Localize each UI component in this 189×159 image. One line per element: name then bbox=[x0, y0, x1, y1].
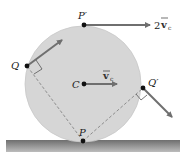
label-top-velocity: 2 v c bbox=[154, 18, 172, 31]
point-center bbox=[82, 82, 87, 87]
svg-text:c: c bbox=[168, 24, 172, 31]
point-p-prime bbox=[82, 23, 87, 28]
label-p-prime: P′ bbox=[77, 10, 88, 21]
rolling-wheel-diagram: P′ P C Q Q′ v c 2 v c bbox=[0, 0, 189, 159]
svg-text:v: v bbox=[102, 70, 110, 81]
label-q-prime: Q′ bbox=[148, 77, 159, 88]
svg-text:v: v bbox=[160, 19, 168, 30]
ground bbox=[6, 140, 180, 152]
point-q bbox=[25, 64, 30, 69]
velocity-arrow-qprime bbox=[143, 88, 172, 117]
point-p bbox=[81, 139, 86, 144]
point-q-prime bbox=[141, 86, 146, 91]
label-contact-p: P bbox=[78, 127, 86, 138]
label-center-c: C bbox=[72, 79, 80, 90]
label-q: Q bbox=[11, 60, 19, 71]
svg-text:2: 2 bbox=[154, 20, 160, 31]
